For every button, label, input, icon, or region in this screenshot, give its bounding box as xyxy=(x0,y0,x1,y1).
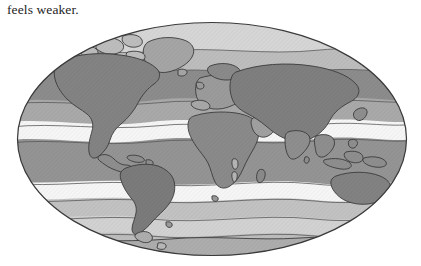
landmass-new-zealand xyxy=(391,199,402,212)
paper-texture-overlay xyxy=(10,14,414,264)
world-map-svg xyxy=(0,0,421,266)
landmass-tasmania xyxy=(374,206,381,213)
landmass-antarctic-island-a xyxy=(105,243,120,250)
world-climate-map-figure xyxy=(0,0,421,266)
page-root: feels weaker. xyxy=(0,0,421,266)
climate-band-group xyxy=(10,14,414,264)
